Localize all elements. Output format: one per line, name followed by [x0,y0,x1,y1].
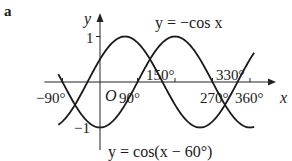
x-tick-label: 270° [200,90,229,106]
labels: −90°90°270°360°1−1yxOy = −cos xy = cos(x… [36,10,287,161]
y-axis-label: y [82,10,92,28]
x-axis-arrow [268,79,276,86]
series-label-cos-shift: y = cos(x − 60°) [108,143,212,161]
y-axis-arrow [97,13,104,22]
x-axis-label: x [279,89,287,106]
annotation-150: 150° [146,67,175,83]
panel-label: a [4,3,12,19]
origin-label: O [105,87,117,104]
x-tick-label: 90° [119,90,140,106]
x-tick-label: −90° [36,90,65,106]
x-tick-label: 360° [235,90,264,106]
chart: a −90°90°270°360°1−1yxOy = −cos xy = cos… [0,0,292,161]
y-tick-label: 1 [86,30,94,46]
series-label-neg-cos: y = −cos x [155,14,222,32]
annotation-330: 330° [216,67,245,83]
y-tick-label: −1 [74,120,90,136]
